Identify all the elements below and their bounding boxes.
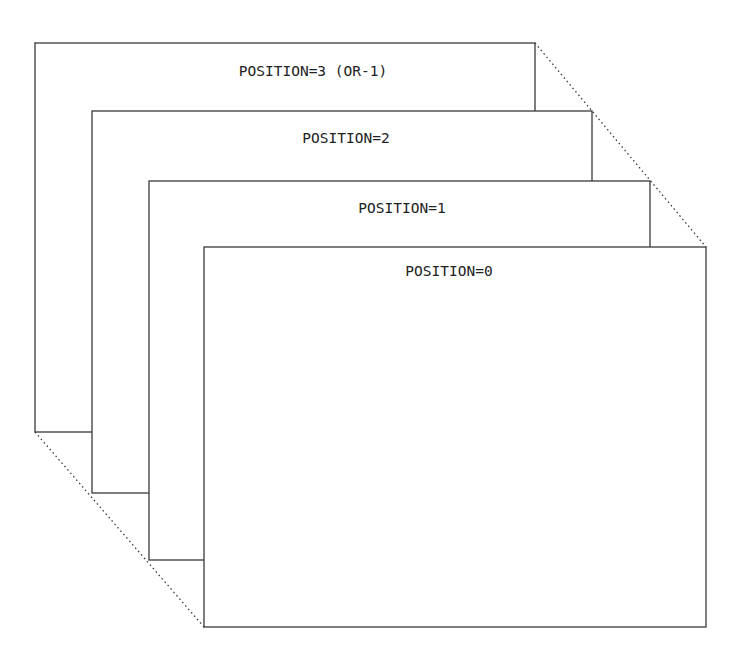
stacked-frames-diagram bbox=[0, 0, 738, 661]
label-position-1: POSITION=1 bbox=[358, 200, 445, 216]
label-position-2: POSITION=2 bbox=[302, 130, 389, 146]
label-position-0: POSITION=0 bbox=[405, 263, 492, 279]
label-position-3: POSITION=3 (OR-1) bbox=[239, 63, 387, 79]
diagram-canvas: POSITION=3 (OR-1) POSITION=2 POSITION=1 … bbox=[0, 0, 738, 661]
frame-position-0 bbox=[204, 247, 706, 627]
